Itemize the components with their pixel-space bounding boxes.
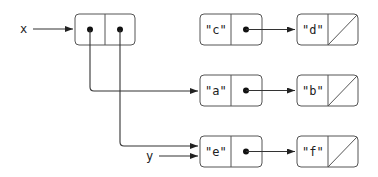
x-cdr-to-e-arrow [120, 30, 198, 146]
cell-e-label: "e" [205, 145, 227, 159]
cell-b-label: "b" [302, 84, 324, 98]
cell-f-label: "f" [302, 145, 324, 159]
variable-x-label: x [20, 22, 27, 36]
variable-y-label: y [146, 149, 153, 163]
pair-x-box [75, 14, 135, 45]
cell-b: "b" [297, 75, 358, 106]
cell-f: "f" [297, 136, 358, 167]
cell-d-label: "d" [302, 23, 324, 37]
cell-d: "d" [297, 14, 358, 45]
cell-c-label: "c" [205, 23, 227, 37]
box-pointer-diagram: x "c" "d" [0, 0, 378, 177]
cell-a-label: "a" [205, 84, 227, 98]
